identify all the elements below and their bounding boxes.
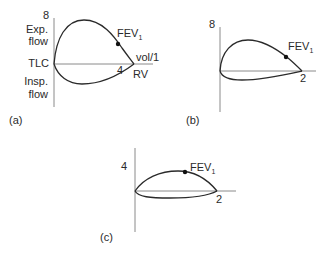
panel-b: 8 FEV1 2 (b): [186, 18, 316, 126]
flow-volume-loops-figure: 8 Exp. flow TLC Insp. flow FEV1 vol/1 4 …: [0, 0, 329, 255]
panel-a-exp-label-2: flow: [28, 35, 48, 47]
panel-a-y-max-label: 8: [43, 9, 49, 21]
panel-a: 8 Exp. flow TLC Insp. flow FEV1 vol/1 4 …: [9, 9, 159, 126]
panel-c-expiratory-curve: [135, 171, 217, 191]
panel-b-caption: (b): [186, 114, 199, 126]
panel-c-fev1-label: FEV1: [190, 161, 215, 175]
panel-b-x-tick-label: 2: [300, 72, 306, 84]
panel-b-y-max-label: 8: [209, 18, 215, 30]
panel-a-fev1-label: FEV1: [117, 27, 142, 41]
panel-b-fev1-marker: [284, 55, 288, 59]
panel-a-x-tick-label: 4: [117, 64, 123, 76]
panel-c-fev1-marker: [183, 170, 187, 174]
panel-b-inspiratory-curve: [220, 71, 302, 80]
panel-c-x-tick-label: 2: [216, 193, 222, 205]
panel-c-inspiratory-curve: [135, 191, 217, 198]
panel-a-tlc-label: TLC: [28, 57, 49, 69]
panel-a-caption: (a): [9, 114, 22, 126]
panel-c: 4 FEV1 2 (c): [100, 148, 236, 243]
panel-a-rv-label: RV: [133, 68, 149, 80]
panel-a-insp-label-1: Insp.: [24, 75, 48, 87]
panel-a-exp-label-1: Exp.: [26, 23, 48, 35]
panel-a-x-axis-label: vol/1: [136, 51, 159, 63]
panel-c-caption: (c): [100, 231, 113, 243]
panel-a-fev1-marker: [116, 42, 120, 46]
panel-a-insp-label-2: flow: [28, 88, 48, 100]
panel-c-y-max-label: 4: [121, 160, 127, 172]
panel-b-fev1-label: FEV1: [288, 40, 313, 54]
